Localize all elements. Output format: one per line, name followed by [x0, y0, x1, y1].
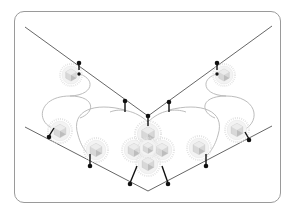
cage-low-right-icon	[187, 136, 211, 160]
cage-low-left-icon	[84, 138, 108, 162]
cage-mid-right-icon	[225, 118, 249, 142]
cage-center-icon	[122, 121, 174, 176]
diagram-canvas	[0, 0, 292, 215]
upper-membrane	[25, 26, 272, 116]
